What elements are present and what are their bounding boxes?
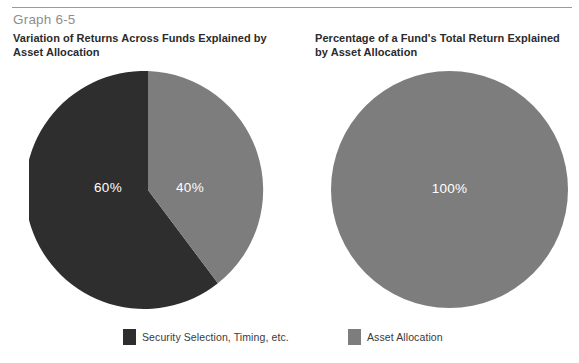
- graph-figure: Graph 6-5 Variation of Returns Across Fu…: [0, 0, 579, 363]
- left-panel-title: Variation of Returns Across Funds Explai…: [13, 31, 285, 59]
- legend-label-security-selection: Security Selection, Timing, etc.: [142, 331, 289, 343]
- header-divider: [12, 7, 572, 8]
- right-pie-chart: 100%: [331, 71, 568, 308]
- legend-swatch-dark-icon: [123, 329, 136, 345]
- graph-number-label: Graph 6-5: [13, 12, 76, 27]
- right-pie-label-100: 100%: [432, 181, 468, 196]
- legend-label-asset-allocation: Asset Allocation: [367, 331, 443, 343]
- left-pie-label-40: 40%: [176, 180, 204, 195]
- left-pie-chart: 60% 40%: [29, 71, 267, 309]
- right-panel-title: Percentage of a Fund's Total Return Expl…: [315, 31, 573, 59]
- legend-item-asset-allocation: Asset Allocation: [348, 329, 443, 345]
- legend-item-security-selection: Security Selection, Timing, etc.: [123, 329, 289, 345]
- left-pie-label-60: 60%: [94, 180, 122, 195]
- legend-swatch-gray-icon: [348, 329, 361, 345]
